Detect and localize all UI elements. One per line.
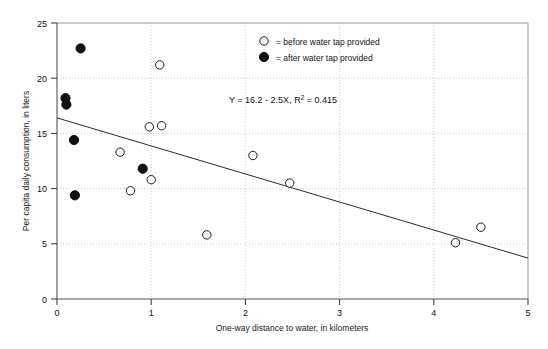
data-point-open: [116, 148, 124, 156]
data-point-open: [451, 239, 459, 247]
x-tick-label-4: 4: [431, 308, 436, 318]
data-point-open: [126, 187, 134, 195]
data-point-filled: [70, 191, 79, 200]
legend-marker-filled-circle-icon: [259, 52, 268, 61]
y-tick-label-20: 20: [37, 74, 47, 84]
legend-label-before: = before water tap provided: [276, 37, 380, 47]
data-point-open: [157, 122, 165, 130]
x-tick-label-2: 2: [243, 308, 248, 318]
data-point-filled: [138, 164, 147, 173]
legend-label-after: = after water tap provided: [276, 53, 373, 63]
data-point-open: [145, 123, 153, 131]
y-tick-label-15: 15: [37, 129, 47, 139]
data-point-open: [147, 176, 155, 184]
y-tick-label-5: 5: [42, 239, 47, 249]
x-tick-label-5: 5: [525, 308, 530, 318]
x-tick-label-0: 0: [54, 308, 59, 318]
equation-suffix: = 0.415: [304, 95, 337, 105]
equation-prefix: Y = 16.2 - 2.5X, R: [229, 95, 301, 105]
y-tick-label-0: 0: [42, 295, 47, 305]
data-point-filled: [69, 135, 78, 144]
regression-equation-annotation: Y = 16.2 - 2.5X, R2 = 0.415: [229, 94, 337, 105]
data-point-filled: [62, 100, 71, 109]
legend-marker-open-circle-icon: [260, 37, 268, 45]
data-point-open: [477, 223, 485, 231]
y-tick-label-10: 10: [37, 184, 47, 194]
y-axis-title: Per capita daily consumption, in liters: [21, 91, 31, 231]
data-point-open: [249, 151, 257, 159]
data-point-open: [286, 179, 294, 187]
data-point-open: [203, 231, 211, 239]
x-tick-label-3: 3: [337, 308, 342, 318]
data-point-filled: [76, 44, 85, 53]
x-tick-label-1: 1: [149, 308, 154, 318]
x-axis-title: One-way distance to water, in kilometers: [216, 323, 369, 333]
data-point-open: [156, 61, 164, 69]
y-tick-label-25: 25: [37, 19, 47, 29]
scatter-plot-figure: 0 5 10 15 20 25 0 1 2 3 4 5 One-way dist…: [0, 0, 548, 349]
